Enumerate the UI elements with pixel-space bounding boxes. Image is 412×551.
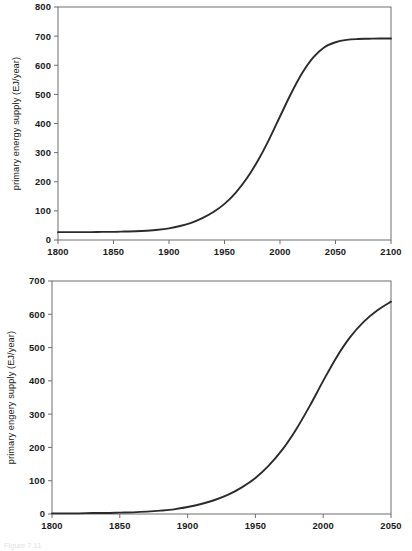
y-tick-label: 300: [29, 409, 45, 420]
x-tick-label: 2000: [269, 246, 290, 257]
y-tick-label: 0: [40, 508, 45, 519]
x-tick-label: 2050: [380, 520, 401, 531]
y-tick-label: 200: [35, 176, 51, 187]
x-tick-label: 1900: [158, 246, 179, 257]
chart-top-canvas: 0100200300400500600700800180018501900195…: [0, 0, 412, 262]
y-tick-label: 100: [35, 205, 51, 216]
x-tick-label: 1800: [47, 246, 68, 257]
plot-frame: [52, 281, 391, 514]
data-curve-line: [52, 302, 391, 514]
y-axis-label: primary energy supply (EJ/year): [11, 57, 21, 190]
chart-bottom-canvas: 0100200300400500600700180018501900195020…: [0, 274, 412, 539]
y-tick-label: 700: [29, 275, 45, 286]
x-tick-label: 1950: [214, 246, 235, 257]
y-tick-label: 800: [35, 1, 51, 12]
y-tick-label: 0: [46, 234, 51, 245]
x-tick-label: 1850: [109, 520, 130, 531]
y-tick-label: 600: [29, 309, 45, 320]
y-tick-label: 400: [29, 375, 45, 386]
y-tick-label: 200: [29, 442, 45, 453]
data-curve-line: [58, 38, 391, 232]
x-tick-label: 2050: [325, 246, 346, 257]
x-tick-label: 1900: [177, 520, 198, 531]
x-tick-label: 1850: [103, 246, 124, 257]
x-tick-label: 2000: [312, 520, 333, 531]
y-tick-label: 300: [35, 147, 51, 158]
y-tick-label: 600: [35, 60, 51, 71]
y-tick-label: 700: [35, 31, 51, 42]
figure-page: 0100200300400500600700800180018501900195…: [0, 0, 412, 551]
chart-top: 0100200300400500600700800180018501900195…: [0, 0, 412, 262]
y-tick-label: 400: [35, 118, 51, 129]
x-tick-label: 2100: [380, 246, 401, 257]
x-tick-label: 1800: [41, 520, 62, 531]
chart-bottom: 0100200300400500600700180018501900195020…: [0, 274, 412, 539]
x-tick-label: 1950: [245, 520, 266, 531]
y-tick-label: 500: [35, 89, 51, 100]
y-tick-label: 500: [29, 342, 45, 353]
figure-caption-fragment: Figure 7.11: [4, 541, 174, 550]
y-tick-label: 100: [29, 475, 45, 486]
y-axis-label: primary engery supply (EJ/year): [6, 331, 16, 464]
